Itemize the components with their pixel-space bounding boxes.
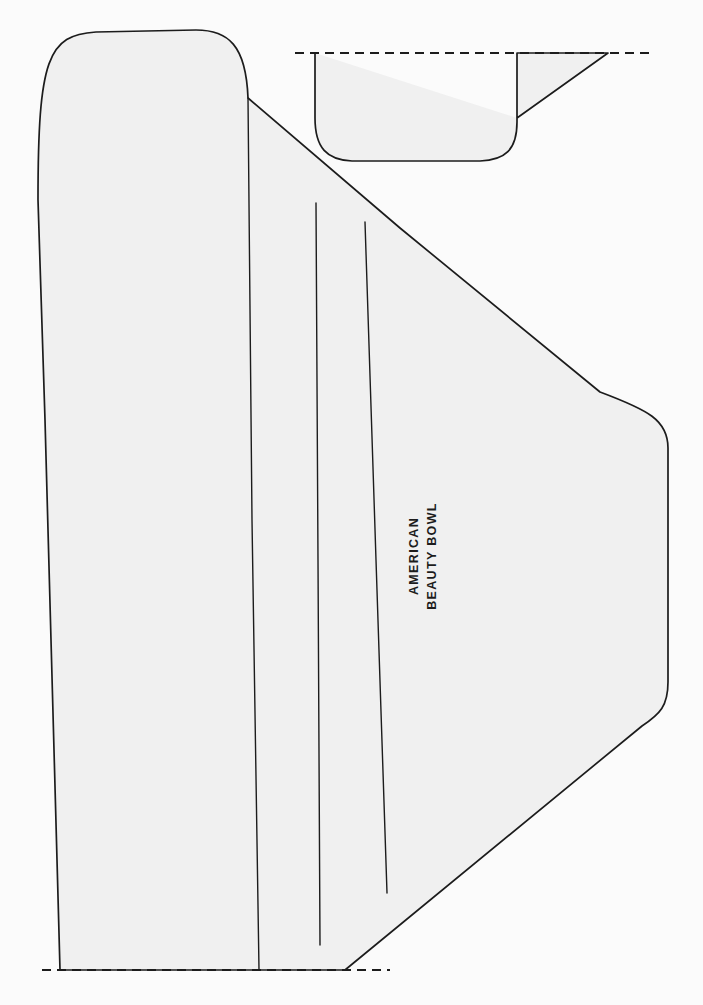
main-panel-fill <box>38 30 668 970</box>
piece-label-line-1: AMERICAN <box>407 517 421 595</box>
piece-label-line-2: BEAUTY BOWL <box>425 502 439 610</box>
piece-fills <box>38 30 668 970</box>
bowl-profile-fill <box>315 53 608 161</box>
pattern-sheet: AMERICAN BEAUTY BOWL <box>0 0 703 1005</box>
pattern-drawing-canvas: AMERICAN BEAUTY BOWL <box>0 0 703 1005</box>
